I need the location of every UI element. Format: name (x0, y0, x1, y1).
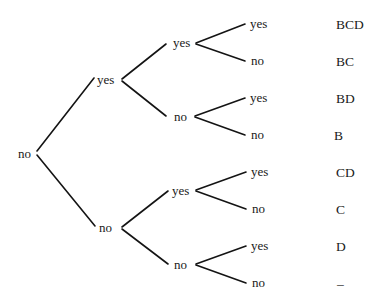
outcome-label-3: BD (336, 91, 355, 106)
level2-node-yes-a: yes (173, 35, 190, 50)
level1-edges (122, 44, 168, 264)
level3-node-yes-7: yes (251, 238, 268, 253)
level2-node-yes-c: yes (172, 183, 189, 198)
root-edges (37, 78, 95, 226)
edge-l1yes-to-l2no (122, 81, 166, 116)
level2-edges (195, 24, 246, 283)
level3-node-no-4: no (251, 127, 264, 142)
outcome-label-8: – (336, 276, 344, 291)
edge-root-to-level1-yes (37, 78, 94, 151)
level2-node-no-b: no (174, 109, 187, 124)
level3-node-no-8: no (252, 275, 265, 290)
edge-l1no-to-l2yes (122, 191, 168, 227)
edge-root-to-level1-no (37, 155, 95, 226)
edge-l2d-to-l3yes (196, 246, 246, 264)
level1-node-no: no (99, 220, 112, 235)
edge-l2a-to-l3no (196, 44, 245, 61)
edge-l2c-to-l3yes (196, 172, 246, 190)
outcome-label-7: D (336, 239, 346, 254)
level2-node-no-d: no (174, 257, 187, 272)
outcome-label-2: BC (336, 54, 354, 69)
level3-node-no-2: no (251, 53, 264, 68)
outcome-label-6: C (336, 202, 345, 217)
decision-tree-diagram: no yes no yes no yes no yes no yes no ye… (0, 0, 380, 304)
level3-node-no-6: no (252, 201, 265, 216)
level3-node-yes-1: yes (250, 16, 267, 31)
edge-l2b-to-l3yes (195, 98, 245, 116)
edge-l2b-to-l3no (195, 117, 245, 135)
edge-l1yes-to-l2yes (122, 44, 166, 79)
level1-node-yes: yes (97, 72, 114, 87)
level3-node-yes-3: yes (250, 90, 267, 105)
outcome-label-5: CD (336, 165, 355, 180)
edge-l2d-to-l3no (196, 265, 246, 283)
root-node-label: no (18, 146, 31, 161)
level3-node-yes-5: yes (251, 164, 268, 179)
edge-l1no-to-l2no (122, 229, 168, 264)
outcome-label-1: BCD (336, 17, 364, 32)
outcome-label-4: B (334, 128, 343, 143)
edge-l2c-to-l3no (196, 191, 246, 209)
edge-l2a-to-l3yes (196, 24, 245, 43)
